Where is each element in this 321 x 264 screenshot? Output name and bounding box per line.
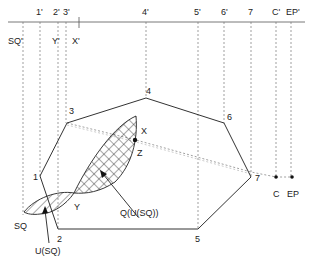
diagram-canvas: 1' 2' 3' 4' 5' 6' 7 C' EP' SQ' Y' X' 1 3…: [0, 0, 321, 264]
axis-label-Cp: C': [272, 7, 280, 17]
point-label-X: X: [141, 126, 147, 136]
point-Z-marker: [133, 138, 137, 142]
axis-label-6p: 6': [221, 7, 228, 17]
axis-label-1p: 1': [36, 7, 43, 17]
point-label-C: C: [273, 189, 280, 199]
annotation-Q-U-SQ: Q(U(SQ)): [120, 208, 159, 218]
region-Q-U-SQ: [74, 116, 136, 193]
region-label-SQ: SQ: [14, 221, 27, 231]
point-label-Z: Z: [137, 148, 143, 158]
axis-label-EPp: EP': [286, 7, 300, 17]
annotation-U-SQ: U(SQ): [35, 246, 61, 256]
point-label-EP: EP: [287, 189, 299, 199]
vertex-label-7: 7: [255, 173, 260, 183]
point-C-marker: [274, 175, 278, 179]
axis-label-7: 7: [248, 7, 253, 17]
vertex-label-3: 3: [69, 106, 74, 116]
projection-label-Xp: X': [72, 36, 80, 46]
vertex-label-1: 1: [33, 172, 38, 182]
axis-label-5p: 5': [194, 7, 201, 17]
arrow-U-SQ: [45, 210, 49, 243]
axis-label-2p: 2': [53, 7, 60, 17]
point-label-Y: Y: [74, 202, 80, 212]
axis-label-4p: 4': [142, 7, 149, 17]
projection-label-SQp: SQ': [8, 36, 23, 46]
projection-label-Yp: Y': [52, 36, 60, 46]
vertex-label-5: 5: [195, 234, 200, 244]
vertex-label-6: 6: [227, 112, 232, 122]
region-SQ: [24, 192, 74, 214]
axis-label-3p: 3': [63, 7, 70, 17]
vertex-label-4: 4: [146, 86, 151, 96]
point-EP-marker: [290, 175, 294, 179]
vertex-label-2: 2: [57, 234, 62, 244]
